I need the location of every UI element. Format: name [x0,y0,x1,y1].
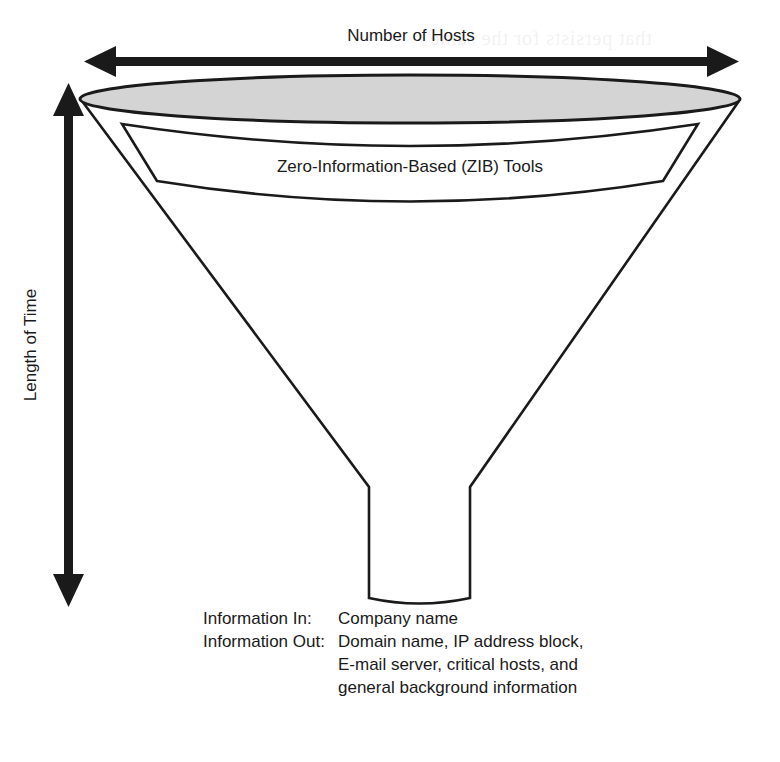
legend-block: Information In: Company name Information… [203,609,583,697]
legend-value-continuation-1: E-mail server, critical hosts, and [338,655,578,674]
horizontal-double-arrow [84,46,739,77]
legend-value-continuation-2: general background information [338,678,577,697]
legend-value-information-out: Domain name, IP address block, [338,632,583,651]
legend-value-information-in: Company name [338,609,458,628]
figure-page: that persists for the same sources will … [0,0,780,762]
axis-label-length-of-time: Length of Time [21,289,40,401]
vertical-double-arrow [53,83,84,607]
funnel-diagram: Number of Hosts Length of Time Zero-Info… [0,0,780,762]
legend-key-information-in: Information In: [203,609,312,628]
legend-key-information-out: Information Out: [203,632,325,651]
axis-label-number-of-hosts: Number of Hosts [347,26,475,45]
funnel-top-ellipse [80,75,740,123]
zib-tools-band-label: Zero-Information-Based (ZIB) Tools [277,157,543,176]
